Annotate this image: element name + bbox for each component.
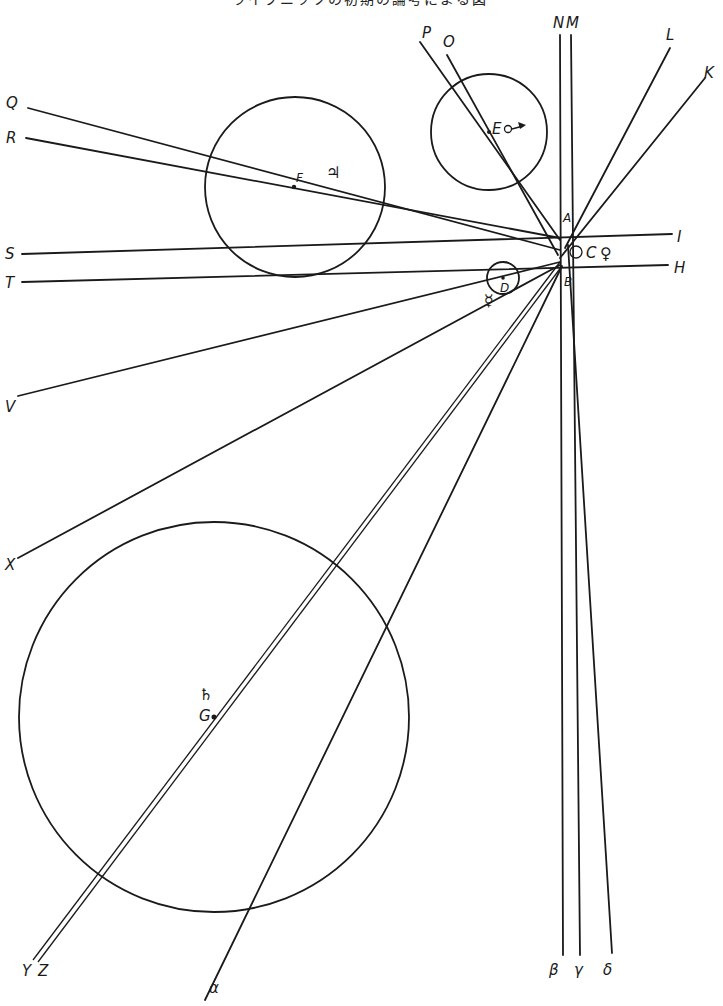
label-beta: β — [548, 961, 559, 979]
label-k: K — [704, 64, 715, 82]
line-z — [38, 266, 562, 962]
line-q — [28, 108, 560, 250]
label-o: O — [443, 33, 455, 51]
point-g — [212, 715, 217, 720]
label-b: B — [564, 275, 572, 289]
label-alpha: α — [209, 979, 219, 997]
mercury-symbol: ☿ — [484, 291, 494, 310]
label-s: S — [5, 245, 15, 263]
line-k — [560, 78, 705, 258]
label-r: R — [6, 129, 16, 147]
label-c: C — [586, 244, 597, 262]
line-delta — [568, 245, 612, 953]
label-e: E — [492, 120, 502, 138]
label-gamma: γ — [574, 961, 584, 979]
saturn-symbol: ♄ — [199, 685, 213, 704]
line-y — [33, 262, 560, 960]
label-y: Y — [22, 962, 33, 980]
label-t: T — [5, 274, 16, 292]
label-a: A — [562, 211, 571, 225]
label-z: Z — [37, 962, 49, 980]
label-delta: δ — [603, 961, 612, 979]
line-m-gamma — [571, 35, 580, 955]
label-q: Q — [6, 94, 18, 112]
label-v: V — [5, 398, 17, 416]
line-x — [18, 265, 560, 558]
label-n: N — [553, 14, 564, 32]
circle-c-venus — [570, 246, 582, 258]
label-g: G — [199, 707, 211, 725]
label-l: L — [666, 26, 674, 44]
line-n-beta — [560, 35, 563, 955]
geometric-ray-diagram: Q R S T V X P O N M L K I H A B C ♀ D ☿ … — [0, 0, 723, 1006]
line-alpha — [205, 266, 562, 1000]
label-x: X — [4, 556, 16, 574]
label-m: M — [566, 14, 579, 32]
mars-arrow-icon — [518, 122, 526, 129]
line-p — [420, 42, 560, 240]
label-d: D — [500, 281, 509, 295]
point-e — [487, 130, 491, 134]
label-p: P — [422, 24, 432, 42]
mars-symbol-circle — [505, 126, 512, 133]
line-l — [565, 48, 670, 248]
label-h: H — [674, 259, 685, 277]
venus-symbol: ♀ — [600, 244, 612, 263]
line-s-i — [22, 234, 672, 254]
jupiter-symbol: ♃ — [326, 163, 340, 182]
point-f — [292, 185, 296, 189]
point-d — [501, 276, 505, 280]
label-i: I — [677, 228, 682, 246]
label-f: F — [296, 171, 304, 185]
